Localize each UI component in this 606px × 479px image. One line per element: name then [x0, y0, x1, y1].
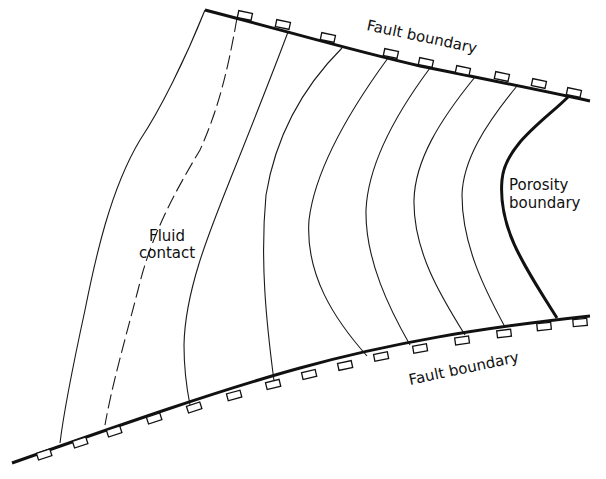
contour-line-4	[309, 58, 388, 356]
contour-line-3	[264, 48, 342, 381]
contour-line-2	[184, 32, 288, 405]
fluid-contact-line	[105, 18, 237, 425]
top-fault-label: Fault boundary	[365, 16, 479, 57]
bottom-fault-line	[12, 316, 590, 463]
fluid-contact-label-line1: Fluid	[149, 227, 185, 245]
contour-line-5	[366, 68, 430, 345]
diagram-canvas: Fault boundary Fault boundary Fluid cont…	[0, 0, 606, 479]
fluid-contact-label-line2: contact	[139, 244, 195, 262]
contour-line-6	[414, 77, 475, 335]
porosity-label-line1: Porosity	[509, 176, 569, 194]
bottom-fault-ticks	[36, 318, 587, 460]
fault-reservoir-diagram: Fault boundary Fault boundary Fluid cont…	[0, 0, 606, 479]
bottom-fault-label: Fault boundary	[407, 348, 521, 389]
porosity-label-line2: boundary	[509, 194, 581, 212]
top-fault-ticks	[237, 11, 581, 98]
